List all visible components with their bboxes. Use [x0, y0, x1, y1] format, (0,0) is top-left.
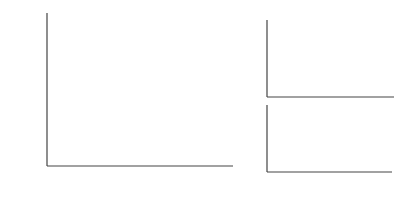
panel-a [0, 13, 233, 166]
chart-canvas [0, 0, 417, 223]
panel-b [267, 20, 394, 172]
